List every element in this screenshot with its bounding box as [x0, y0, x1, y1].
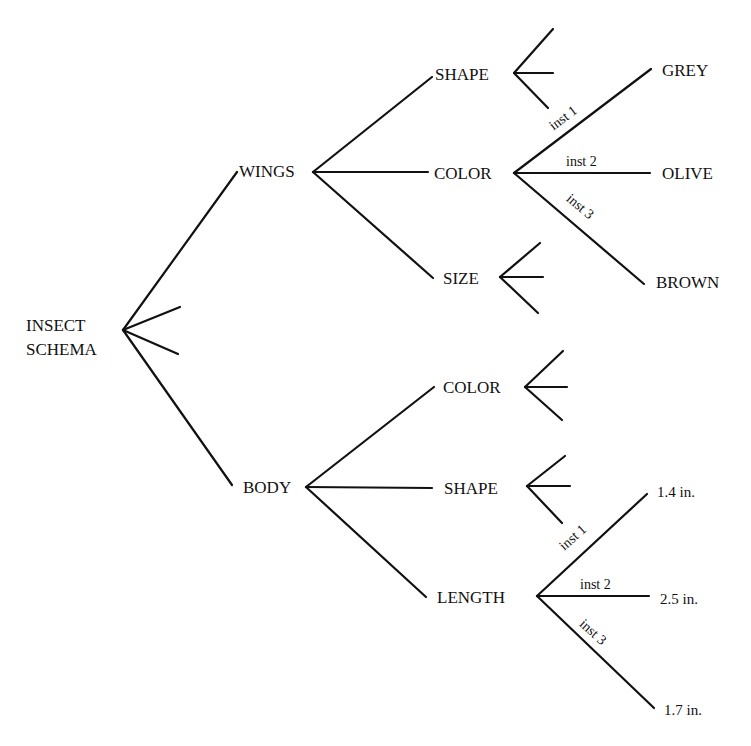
root-label-line1: INSECT [26, 316, 86, 336]
edge-label-body-inst2: inst 2 [580, 577, 611, 593]
node-wings-color: COLOR [434, 164, 492, 184]
value-brown: BROWN [656, 273, 719, 293]
node-body-shape: SHAPE [444, 479, 498, 499]
value-olive: OLIVE [662, 164, 713, 184]
node-body-color: COLOR [443, 378, 501, 398]
value-1-7-in: 1.7 in. [664, 700, 702, 720]
edge-body-length [306, 487, 426, 597]
diagram-lines [0, 0, 751, 746]
node-body: BODY [243, 478, 291, 498]
value-grey: GREY [662, 61, 708, 81]
insect-schema-diagram: INSECT SCHEMA WINGS BODY SHAPE COLOR SIZ… [0, 0, 751, 746]
root-label-line2: SCHEMA [26, 340, 97, 360]
node-body-length: LENGTH [437, 588, 505, 608]
node-wings: WINGS [239, 162, 295, 182]
edge-wings-size [313, 172, 433, 278]
node-wings-size: SIZE [443, 269, 479, 289]
edge-wings-shape [313, 77, 432, 172]
edge-body-color [306, 387, 434, 487]
edge-body-shape [306, 487, 432, 488]
node-wings-shape: SHAPE [435, 65, 489, 85]
edge-label-wings-inst2: inst 2 [566, 154, 597, 170]
edge-wings-color-inst3 [514, 173, 644, 284]
value-2-5-in: 2.5 in. [660, 589, 698, 609]
value-1-4-in: 1.4 in. [657, 482, 695, 502]
edge-body-length-inst3 [537, 596, 654, 708]
